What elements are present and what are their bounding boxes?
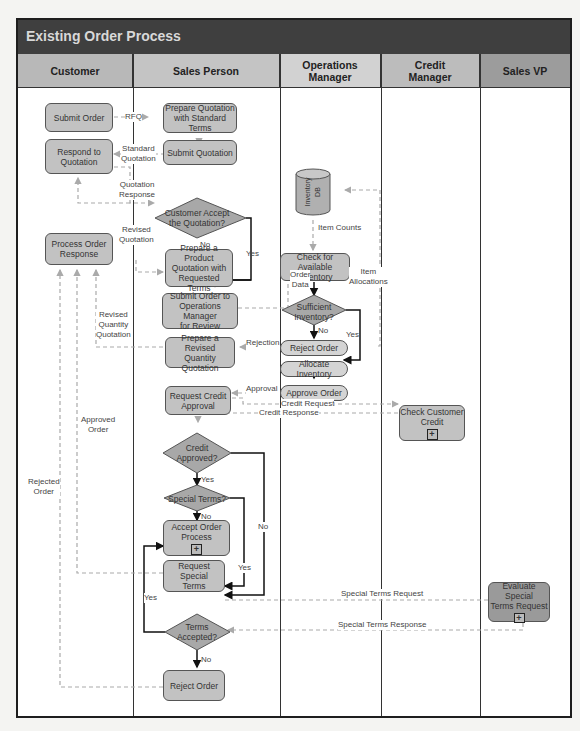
flow-label-yes: Yes bbox=[246, 249, 259, 259]
decision-label: Terms Accepted? bbox=[170, 620, 224, 644]
task-check-customer-credit[interactable]: Check Customer Credit + bbox=[399, 405, 465, 441]
task-request-special-terms[interactable]: Request Special Terms bbox=[163, 560, 225, 592]
task-request-credit-approval[interactable]: Request Credit Approval bbox=[165, 386, 231, 415]
flow-label-no: No bbox=[200, 240, 210, 250]
decision-label: Customer Accept the Quotation? bbox=[155, 206, 239, 230]
task-label: Accept Order Process bbox=[171, 522, 221, 542]
task-label: Evaluate Special Terms Request bbox=[489, 581, 549, 611]
flow-label-approval: Approval bbox=[246, 384, 278, 394]
flow-label-item-allocations: Item Allocations bbox=[349, 267, 388, 287]
task-submit-order[interactable]: Submit Order bbox=[45, 103, 113, 132]
decision-label: Credit Approved? bbox=[168, 441, 226, 465]
task-evaluate-special-terms[interactable]: Evaluate Special Terms Request + bbox=[488, 582, 550, 622]
flow-label-no: No bbox=[258, 522, 268, 532]
flow-label-standard-quotation: Standard Quotation bbox=[121, 144, 156, 164]
subprocess-plus-icon[interactable]: + bbox=[514, 613, 525, 623]
subprocess-plus-icon[interactable]: + bbox=[191, 544, 202, 555]
flow-label-yes: Yes bbox=[238, 563, 251, 573]
flow-label-rejected-order: Rejected Order bbox=[28, 477, 60, 497]
flow-label-yes: Yes bbox=[201, 475, 214, 485]
flow-label-special-terms-request: Special Terms Request bbox=[341, 589, 423, 599]
task-submit-quotation[interactable]: Submit Quotation bbox=[163, 140, 237, 165]
flow-label-order-data: Order Data bbox=[290, 270, 310, 290]
decision-label: Special Terms? bbox=[166, 493, 228, 505]
task-submit-order-to-operations[interactable]: Submit Order to Operations Manager for R… bbox=[162, 293, 238, 329]
flow-label-approved-order: Approved Order bbox=[81, 415, 115, 435]
flow-label-item-counts: Item Counts bbox=[318, 223, 361, 233]
task-process-order-response[interactable]: Process Order Response bbox=[45, 233, 113, 265]
task-reject-order-sales[interactable]: Reject Order bbox=[163, 670, 225, 701]
flow-label-no: No bbox=[201, 512, 211, 522]
task-accept-order-process[interactable]: Accept Order Process + bbox=[163, 520, 230, 556]
flow-label-special-terms-response: Special Terms Response bbox=[338, 620, 426, 630]
decision-label: Sufficient Inventory? bbox=[288, 301, 340, 323]
task-prepare-product-quotation[interactable]: Prepare a Product Quotation with Request… bbox=[165, 249, 233, 287]
flow-label-revised-quantity-quotation: Revised Quantity Quotation bbox=[96, 310, 131, 340]
flow-label-rejection: Rejection bbox=[246, 338, 279, 348]
flow-label-no: No bbox=[318, 326, 328, 336]
task-prepare-revised-quantity[interactable]: Prepare a Revised Quantity Quotation bbox=[165, 337, 235, 368]
flow-label-revised-quotation: Revised Quotation bbox=[119, 225, 154, 245]
subprocess-plus-icon[interactable]: + bbox=[427, 429, 438, 440]
task-allocate-inventory[interactable]: Allocate Inventory bbox=[280, 361, 348, 377]
flow-label-rfq: RFQ bbox=[125, 112, 142, 122]
inventory-db-label: Inventory DB bbox=[299, 175, 327, 209]
task-respond-to-quotation[interactable]: Respond to Quotation bbox=[45, 139, 113, 174]
flow-label-credit-response: Credit Response bbox=[259, 408, 319, 418]
flow-label-yes: Yes bbox=[346, 330, 359, 340]
flow-label-yes: Yes bbox=[144, 593, 157, 603]
flow-label-quotation-response: Quotation Response bbox=[119, 180, 155, 200]
task-reject-order-ops[interactable]: Reject Order bbox=[280, 340, 348, 356]
flow-label-no: No bbox=[201, 655, 211, 665]
task-prepare-quotation-standard[interactable]: Prepare Quotation with Standard Terms bbox=[163, 103, 237, 133]
task-label: Check Customer Credit bbox=[400, 407, 463, 427]
swimlane-diagram: Existing Order Process Customer Sales Pe… bbox=[16, 18, 572, 718]
